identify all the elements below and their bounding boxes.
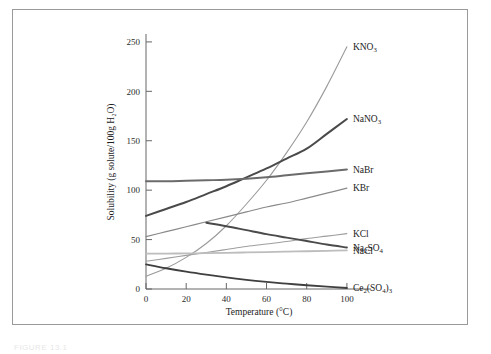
series-label-NaBr: NaBr bbox=[353, 165, 374, 175]
chart-frame: 050100150200250 020406080100 KNO3NaNO3Na… bbox=[12, 9, 468, 325]
series-curve-NaBr bbox=[146, 169, 347, 181]
series-curve-NaCl bbox=[146, 250, 347, 253]
series-label-Ce2(SO4)3: Ce2(SO4)3 bbox=[353, 283, 393, 294]
series-label-Na2SO4: Na2SO4 bbox=[353, 243, 384, 254]
series-curve-KNO3 bbox=[146, 47, 347, 276]
x-axis: 020406080100 bbox=[144, 283, 371, 304]
x-tick-label: 60 bbox=[262, 294, 272, 304]
y-axis-tick-labels: 050100150200250 bbox=[127, 37, 141, 294]
y-axis: 050100150200250 bbox=[127, 34, 153, 294]
x-axis-title: Temperature (°C) bbox=[226, 307, 293, 318]
figure-caption-text: FIGURE 13.1 bbox=[14, 343, 68, 352]
series-curve-NaNO3 bbox=[146, 119, 347, 216]
series-label-KBr: KBr bbox=[353, 183, 370, 193]
y-axis-title: Solubility (g solute/100g H₂O) bbox=[106, 103, 117, 220]
series-curve-KCl bbox=[146, 234, 347, 262]
x-tick-label: 100 bbox=[340, 294, 354, 304]
series-curves bbox=[146, 47, 347, 288]
x-tick-label: 0 bbox=[144, 294, 149, 304]
y-tick-label: 0 bbox=[136, 284, 141, 294]
x-tick-label: 40 bbox=[222, 294, 232, 304]
series-label-KCl: KCl bbox=[353, 229, 369, 239]
x-tick-label: 20 bbox=[182, 294, 192, 304]
solubility-curves-chart: 050100150200250 020406080100 KNO3NaNO3Na… bbox=[13, 10, 467, 324]
series-inline-labels: KNO3NaNO3NaBrKBrKClNaClNa2SO4Ce2(SO4)3 bbox=[353, 42, 393, 294]
y-tick-label: 250 bbox=[127, 37, 141, 47]
series-label-NaNO3: NaNO3 bbox=[353, 114, 382, 125]
series-curve-Na2SO4 bbox=[206, 223, 347, 248]
x-axis-tick-labels: 020406080100 bbox=[144, 294, 354, 304]
x-tick-label: 80 bbox=[302, 294, 312, 304]
series-label-KNO3: KNO3 bbox=[353, 42, 378, 53]
y-tick-label: 150 bbox=[127, 136, 141, 146]
y-axis-ticks bbox=[146, 42, 152, 289]
y-tick-label: 100 bbox=[127, 185, 141, 195]
y-tick-label: 50 bbox=[131, 235, 141, 245]
figure-caption: FIGURE 13.1 bbox=[14, 336, 134, 345]
y-tick-label: 200 bbox=[127, 87, 141, 97]
series-curve-Ce2(SO4)3 bbox=[146, 264, 347, 288]
